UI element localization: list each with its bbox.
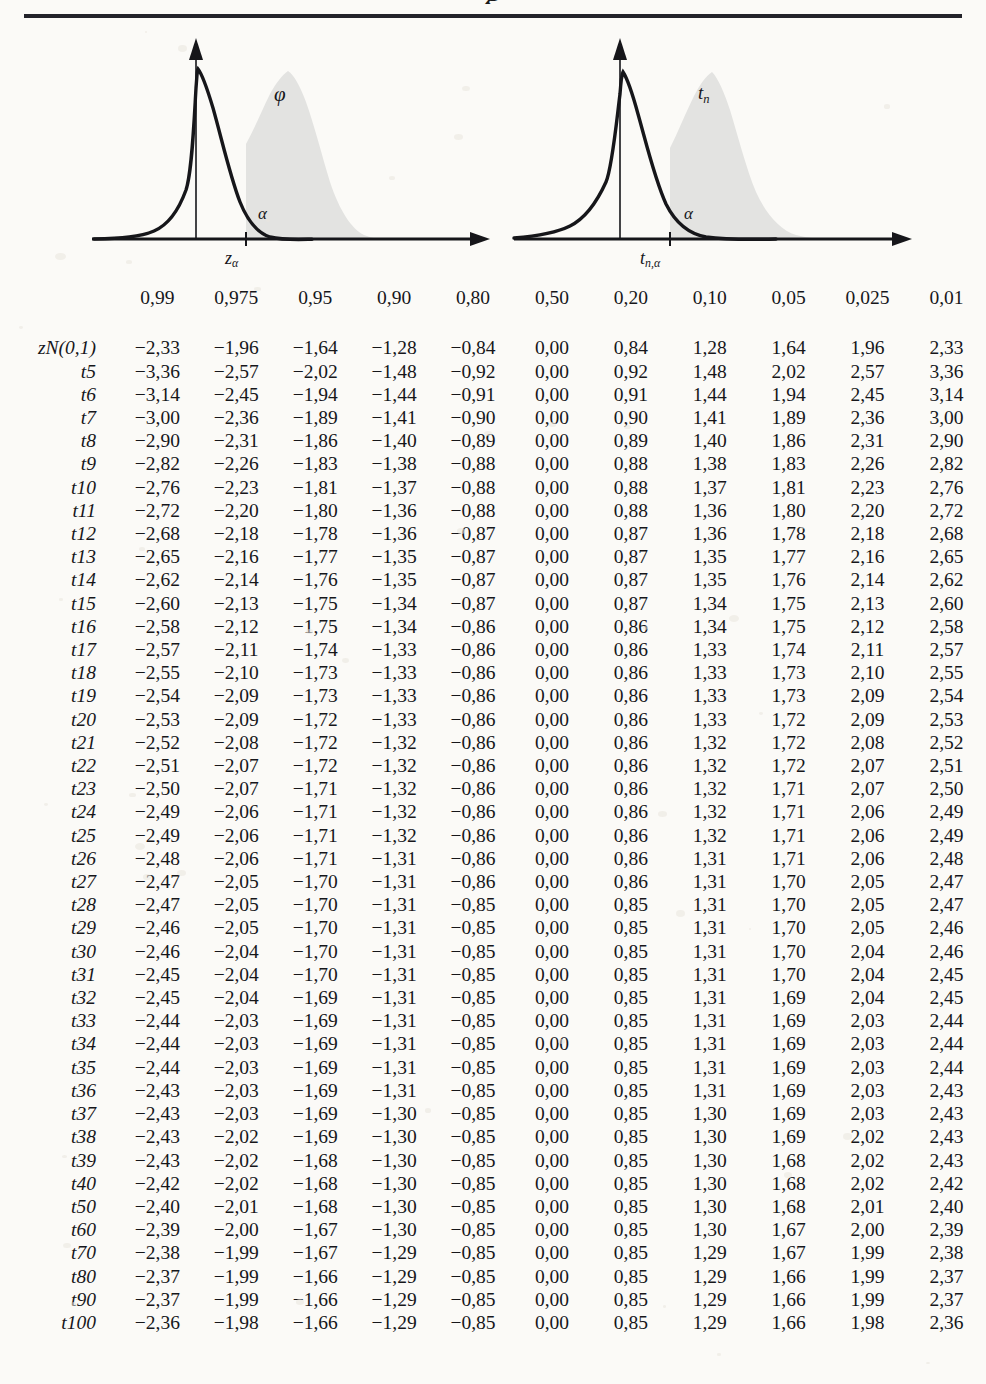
table-row: t23−2,50−2,07−1,71−1,32−0,860,000,861,32… (0, 777, 986, 800)
table-cell: 1,44 (670, 383, 749, 406)
table-cell: 0,00 (513, 963, 592, 986)
table-cell: 2,53 (907, 708, 986, 731)
table-cell: −2,10 (197, 661, 276, 684)
table-cell: −1,64 (276, 336, 355, 359)
table-cell: 1,31 (670, 1056, 749, 1079)
table-cell: −1,34 (355, 615, 434, 638)
table-cell: −1,99 (197, 1241, 276, 1264)
table-cell: −2,38 (118, 1241, 197, 1264)
table-cell: 2,02 (828, 1172, 907, 1195)
table-cell: −1,70 (276, 893, 355, 916)
table-cell: 2,07 (828, 754, 907, 777)
table-cell: 1,30 (670, 1218, 749, 1241)
table-cell: 0,85 (591, 1172, 670, 1195)
table-cell: −2,65 (118, 545, 197, 568)
table-cell: −2,62 (118, 568, 197, 591)
table-cell: 0,86 (591, 800, 670, 823)
table-cell: −1,33 (355, 708, 434, 731)
table-cell: 2,45 (828, 383, 907, 406)
table-cell: −1,99 (197, 1288, 276, 1311)
table-cell: 1,76 (749, 568, 828, 591)
table-cell: −0,85 (434, 1288, 513, 1311)
table-cell: −0,85 (434, 1172, 513, 1195)
table-cell: −2,50 (118, 777, 197, 800)
table-cell: 1,86 (749, 429, 828, 452)
column-header: 0,05 (749, 286, 828, 313)
table-cell: −2,16 (197, 545, 276, 568)
column-header: 0,20 (591, 286, 670, 313)
table-cell: −2,05 (197, 893, 276, 916)
row-label: t31 (0, 963, 118, 986)
table-cell: 0,85 (591, 1102, 670, 1125)
row-label: t13 (0, 545, 118, 568)
table-cell: 1,69 (749, 1125, 828, 1148)
table-row: t22−2,51−2,07−1,72−1,32−0,860,000,861,32… (0, 754, 986, 777)
table-cell: 0,00 (513, 777, 592, 800)
row-label: t22 (0, 754, 118, 777)
row-label: t30 (0, 940, 118, 963)
table-cell: −1,69 (276, 1125, 355, 1148)
table-cell: −2,82 (118, 452, 197, 475)
table-cell: −2,11 (197, 638, 276, 661)
table-cell: −1,67 (276, 1218, 355, 1241)
column-header: 0,025 (828, 286, 907, 313)
table-cell: −2,90 (118, 429, 197, 452)
table-cell: 0,85 (591, 1265, 670, 1288)
table-cell: −1,70 (276, 963, 355, 986)
table-cell: 1,94 (749, 383, 828, 406)
table-cell: 1,67 (749, 1241, 828, 1264)
table-cell: −1,73 (276, 684, 355, 707)
table-row: t34−2,44−2,03−1,69−1,31−0,850,000,851,31… (0, 1032, 986, 1055)
table-cell: 0,00 (513, 800, 592, 823)
row-label: t25 (0, 824, 118, 847)
table-cell: 2,06 (828, 800, 907, 823)
table-cell: 2,07 (828, 777, 907, 800)
table-cell: −2,43 (118, 1102, 197, 1125)
table-cell: 1,36 (670, 522, 749, 545)
table-cell: −1,66 (276, 1288, 355, 1311)
table-cell: 2,43 (907, 1149, 986, 1172)
column-header-row: 0,99 0,975 0,95 0,90 0,80 0,50 0,20 0,10… (0, 286, 986, 313)
table-cell: −0,85 (434, 986, 513, 1009)
table-cell: −0,88 (434, 499, 513, 522)
table-cell: 0,87 (591, 522, 670, 545)
table-cell: 2,03 (828, 1056, 907, 1079)
row-label: t33 (0, 1009, 118, 1032)
table-cell: 1,73 (749, 661, 828, 684)
table-cell: −0,85 (434, 1125, 513, 1148)
table-cell: −1,30 (355, 1125, 434, 1148)
table-cell: 3,36 (907, 360, 986, 383)
table-cell: −0,85 (434, 1241, 513, 1264)
table-cell: 2,01 (828, 1195, 907, 1218)
table-cell: 0,00 (513, 1125, 592, 1148)
row-label: t28 (0, 893, 118, 916)
row-label: t24 (0, 800, 118, 823)
table-cell: −2,54 (118, 684, 197, 707)
table-cell: −1,31 (355, 1032, 434, 1055)
table-cell: −2,44 (118, 1009, 197, 1032)
table-cell: 0,91 (591, 383, 670, 406)
table-cell: 0,85 (591, 1288, 670, 1311)
table-cell: 2,57 (907, 638, 986, 661)
table-cell: −1,81 (276, 476, 355, 499)
table-cell: −2,43 (118, 1079, 197, 1102)
table-cell: −1,70 (276, 940, 355, 963)
table-cell: 1,29 (670, 1311, 749, 1334)
row-label: t70 (0, 1241, 118, 1264)
table-cell: −0,85 (434, 1195, 513, 1218)
table-cell: 1,64 (749, 336, 828, 359)
table-cell: 1,71 (749, 824, 828, 847)
table-cell: −1,34 (355, 592, 434, 615)
table-cell: 0,85 (591, 1125, 670, 1148)
table-cell: 0,00 (513, 1172, 592, 1195)
table-cell: 1,78 (749, 522, 828, 545)
table-cell: −0,86 (434, 731, 513, 754)
table-cell: −1,71 (276, 847, 355, 870)
row-label: t9 (0, 452, 118, 475)
table-cell: −1,72 (276, 708, 355, 731)
table-cell: −2,53 (118, 708, 197, 731)
table-cell: 2,55 (907, 661, 986, 684)
table-cell: −2,18 (197, 522, 276, 545)
density-figures: φ α zα tn α tn,α (0, 26, 986, 278)
table-cell: −0,85 (434, 1079, 513, 1102)
